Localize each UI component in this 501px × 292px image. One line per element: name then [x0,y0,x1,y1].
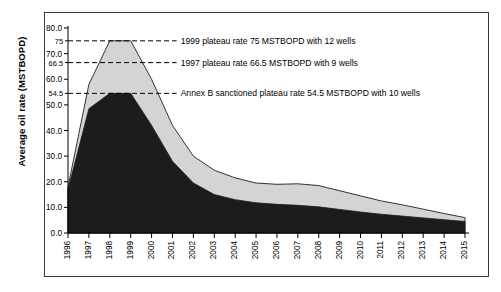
x-tick-label: 2007 [293,241,302,259]
y-tick-label-minor: 75 [27,36,63,45]
annotation-label-plateau-1999: 1999 plateau rate 75 MSTBOPD with 12 wel… [181,36,356,46]
y-tick-label: 40.0 [22,126,62,135]
y-tick-label: 10.0 [22,203,62,212]
x-tick-label: 2000 [147,241,156,259]
y-tick-label: 50.0 [22,100,62,109]
series-areas [68,41,465,233]
annotation-label-annex-b: Annex B sanctioned plateau rate 54.5 MST… [181,88,420,98]
x-tick-label: 2005 [251,241,260,259]
x-tick-label: 2011 [376,241,385,259]
annotation-label-plateau-1997: 1997 plateau rate 66.5 MSTBOPD with 9 we… [181,58,358,68]
x-tick-label: 2012 [397,241,406,259]
x-tick-label: 1998 [105,241,114,259]
x-tick-label: 1996 [63,241,72,259]
x-tick-label: 1997 [84,241,93,259]
y-tick-label: 60.0 [22,75,62,84]
y-tick-label-minor: 66.5 [27,58,63,67]
y-tick-label-minor: 54.5 [27,89,63,98]
x-tick-label: 2003 [209,241,218,259]
x-tick-label: 2013 [418,241,427,259]
y-tick-label: 20.0 [22,177,62,186]
x-tick-label: 2006 [272,241,281,259]
y-tick-label: 30.0 [22,152,62,161]
x-tick-label: 2004 [230,241,239,259]
x-tick-label: 2008 [314,241,323,259]
y-tick-label: 0.0 [22,229,62,238]
x-tick-label: 2001 [167,241,176,259]
x-tick-label: 2010 [356,241,365,259]
x-tick-label: 2014 [439,241,448,259]
x-tick-label: 2009 [335,241,344,259]
x-tick-label: 2002 [188,241,197,259]
x-tick-label: 2015 [460,241,469,259]
y-tick-label: 80.0 [22,24,62,33]
chart-figure: Average oil rate (MSTBOPD) 0.010.020.030… [0,0,501,292]
y-tick-label: 70.0 [22,49,62,58]
x-tick-label: 1999 [126,241,135,259]
